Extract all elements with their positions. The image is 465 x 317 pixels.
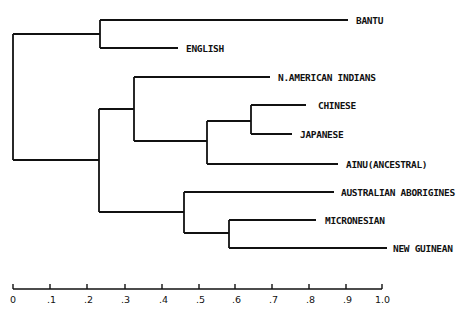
asian-amerind-cluster — [134, 77, 270, 141]
leaf-label-n-american-indians: N.AMERICAN INDIANS — [278, 72, 376, 83]
leaf-label-ainu: AINU(ANCESTRAL) — [346, 159, 427, 170]
tick-label-0-4: .4 — [159, 294, 168, 305]
tick-label-0-8: .8 — [306, 294, 315, 305]
leaf-label-english: ENGLISH — [186, 43, 225, 54]
leaf-label-chinese: CHINESE — [318, 100, 357, 111]
distance-axis: 0 .1 .2 .3 .4 .5 .6 .7 .8 .9 1.0 — [10, 284, 390, 305]
leaf-label-japanese: JAPANESE — [300, 129, 344, 140]
leaf-label-micronesian: MICRONESIAN — [325, 215, 385, 226]
dendrogram: BANTU ENGLISH N.AMERICAN INDIANS CHINESE… — [0, 0, 465, 317]
tick-label-0-5: .5 — [196, 294, 205, 305]
root-cluster — [13, 34, 100, 160]
lower-main-cluster — [99, 109, 184, 212]
leaf-label-australian-aborigines: AUSTRALIAN ABORIGINES — [341, 187, 455, 198]
tick-label-0-6: .6 — [232, 294, 241, 305]
chinese-japanese-cluster — [251, 105, 306, 134]
tick-label-0-7: .7 — [269, 294, 278, 305]
leaf-label-new-guinean: NEW GUINEAN — [393, 243, 453, 254]
tick-label-0-3: .3 — [121, 294, 130, 305]
tick-label-0: 0 — [10, 294, 16, 305]
east-asian-cluster — [207, 121, 338, 164]
tick-label-0-9: .9 — [343, 294, 352, 305]
leaf-label-bantu: BANTU — [356, 15, 384, 26]
tick-label-0-1: .1 — [47, 294, 56, 305]
tick-label-0-2: .2 — [84, 294, 93, 305]
oceanian-cluster — [184, 192, 334, 233]
tick-label-1-0: 1.0 — [375, 294, 390, 305]
bantu-english-cluster — [100, 20, 348, 48]
